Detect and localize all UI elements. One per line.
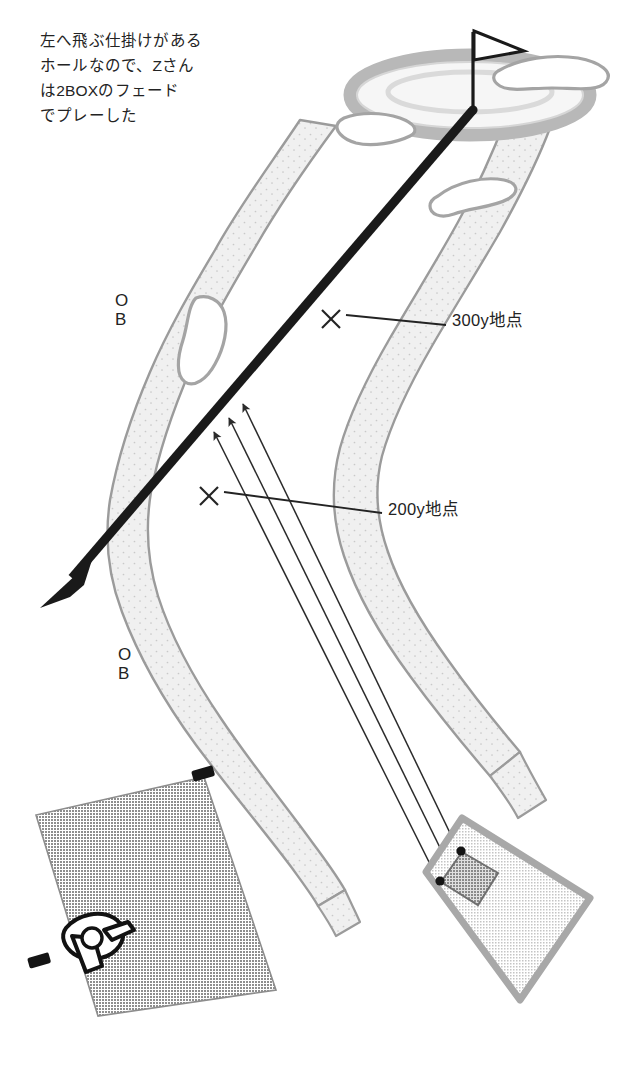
bunker-green-left (337, 114, 415, 145)
front-tee-box-surface (426, 818, 590, 1000)
yardage-label-300: 300y地点 (452, 307, 524, 331)
tee-marker-front-lower (435, 876, 444, 885)
left-rough-band (107, 120, 345, 906)
ob-label-lower: O B (118, 645, 132, 683)
ob-label-upper: O B (115, 291, 129, 329)
ob-upper-line2: B (115, 310, 129, 329)
tee-marker-front-upper (456, 846, 465, 855)
ob-lower-line1: O (118, 645, 132, 664)
ob-upper-line1: O (115, 291, 129, 310)
yardage-label-200: 200y地点 (388, 496, 460, 520)
course-layout-svg (0, 0, 628, 1074)
back-tee-box (27, 765, 276, 1016)
shot-line-arrowhead (40, 560, 92, 608)
x-mark-300 (322, 310, 340, 328)
ob-lower-line2: B (118, 664, 132, 683)
x-mark-200 (200, 487, 218, 505)
tee-marker-back-left (27, 952, 51, 969)
hole-cup-dot (468, 105, 477, 114)
front-tee-box-2box (426, 818, 590, 1000)
golf-hole-diagram: 左へ飛ぶ仕掛けがある ホールなので、Zさん は2BOXのフェード でプレーした … (0, 0, 628, 1074)
hole-caption: 左へ飛ぶ仕掛けがある ホールなので、Zさん は2BOXのフェード でプレーした (40, 28, 290, 128)
back-tee-box-surface (36, 777, 276, 1016)
